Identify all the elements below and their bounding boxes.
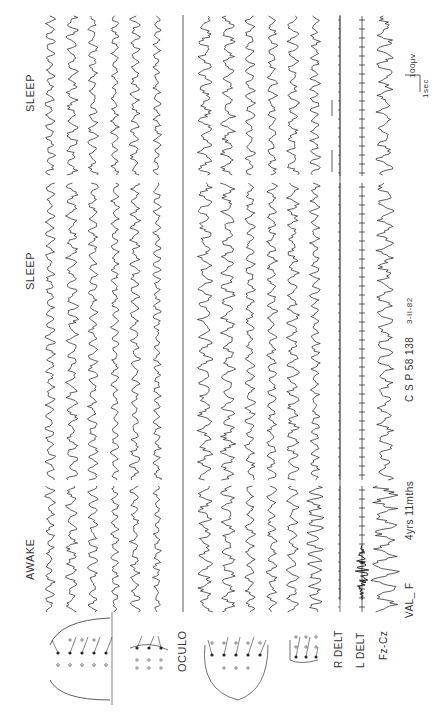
eeg-channel-trace xyxy=(267,486,278,612)
eeg-channel-trace xyxy=(286,486,299,612)
l-delt-trace xyxy=(359,183,365,480)
channel-label-r-delt: R DELT xyxy=(333,630,344,668)
eeg-channel-trace xyxy=(307,486,324,612)
eeg-channel-trace xyxy=(45,486,56,612)
eeg-channel-trace xyxy=(221,486,235,612)
patient-age: 4yrs 11mths xyxy=(404,481,415,540)
eeg-channel-trace xyxy=(130,183,141,480)
head-diagram-group1 xyxy=(50,612,112,705)
eeg-channel-trace xyxy=(87,183,98,480)
eeg-channel-trace xyxy=(220,183,236,480)
state-label-sleep-2: SLEEP xyxy=(24,74,36,112)
eeg-channel-trace xyxy=(111,16,120,175)
eeg-channel-trace xyxy=(45,183,56,480)
eeg-channel-trace xyxy=(245,183,256,480)
patient-name: VAL_ F xyxy=(404,582,415,618)
eeg-channel-trace xyxy=(66,486,78,612)
separators xyxy=(183,15,340,612)
eeg-channel-trace xyxy=(45,16,56,175)
eeg-channel-trace xyxy=(371,486,400,612)
eeg-channel-trace xyxy=(376,183,394,480)
eeg-channel-trace xyxy=(153,486,162,612)
scale-time-label: 1sec xyxy=(421,79,430,98)
state-label-sleep-1: SLEEP xyxy=(24,252,36,290)
eeg-channel-trace xyxy=(66,16,79,175)
eeg-channel-trace xyxy=(267,16,278,175)
eeg-channel-trace xyxy=(129,16,140,175)
eeg-traces xyxy=(45,16,400,612)
eeg-channel-trace xyxy=(111,183,120,480)
eeg-channel-trace xyxy=(153,183,162,480)
eeg-channel-trace xyxy=(198,486,213,612)
eeg-channel-trace xyxy=(310,16,321,175)
head-diagram-group3 xyxy=(204,637,268,700)
eeg-channel-trace xyxy=(111,486,120,612)
eeg-channel-trace xyxy=(376,16,393,175)
eeg-channel-trace xyxy=(245,16,256,175)
eeg-channel-trace xyxy=(88,16,99,175)
record-date: 3-II-82 xyxy=(405,297,414,324)
eeg-channel-trace xyxy=(129,486,140,612)
eeg-channel-trace xyxy=(287,16,300,175)
eeg-channel-trace xyxy=(267,183,278,480)
eeg-channel-trace xyxy=(197,16,212,175)
state-label-awake: AWAKE xyxy=(24,539,36,580)
eeg-channel-trace xyxy=(153,16,162,175)
eeg-recording xyxy=(0,0,439,725)
head-diagram-group4 xyxy=(290,636,318,663)
channel-label-l-delt: L DELT xyxy=(355,632,366,668)
eeg-channel-trace xyxy=(309,183,320,480)
channel-label-oculo: OCULO xyxy=(176,630,188,672)
scale-amplitude-label: 100µv xyxy=(408,54,417,78)
eeg-channel-trace xyxy=(88,486,99,612)
channel-label-fz-cz: Fz-Cz xyxy=(378,631,389,660)
eeg-channel-trace xyxy=(286,183,299,480)
eeg-channel-trace xyxy=(220,16,235,175)
eeg-channel-trace xyxy=(245,486,256,612)
eeg-channel-trace xyxy=(66,183,79,480)
head-diagram-group2 xyxy=(130,636,168,669)
eeg-channel-trace xyxy=(197,183,213,480)
l-delt-trace xyxy=(359,16,365,176)
record-id: C S P 58 138 xyxy=(404,337,415,402)
